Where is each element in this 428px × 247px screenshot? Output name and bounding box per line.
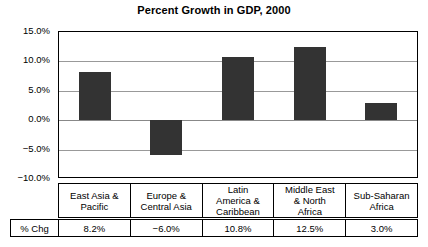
category-line: America & bbox=[216, 195, 260, 206]
value-cell-middle-east-north-africa: 12.5% bbox=[274, 220, 346, 236]
bar-europe-central-asia[interactable] bbox=[150, 120, 182, 155]
category-label-latin-america-caribbean: Latin America & Caribbean bbox=[216, 184, 260, 217]
chart-title: Percent Growth in GDP, 2000 bbox=[0, 4, 428, 16]
row-label-pct-chg: % Chg bbox=[10, 219, 59, 237]
y-tick-label-0: 0.0% bbox=[28, 114, 50, 124]
category-line: Pacific bbox=[80, 201, 108, 212]
category-cell-sub-saharan-africa: Sub-Saharan Africa bbox=[346, 184, 417, 217]
y-tick-label-15: 15.0% bbox=[23, 26, 50, 36]
y-axis-labels: 15.0% 10.0% 5.0% 0.0% −5.0% −10.0% bbox=[0, 31, 54, 178]
bar-column-middle-east-north-africa bbox=[274, 32, 346, 177]
category-line: Caribbean bbox=[216, 206, 260, 217]
category-line: Middle East bbox=[285, 184, 335, 195]
category-line: East Asia & bbox=[70, 190, 119, 201]
category-cell-east-asia-pacific: East Asia & Pacific bbox=[59, 184, 131, 217]
category-line: Central Asia bbox=[141, 201, 192, 212]
y-tick-label-5: 5.0% bbox=[28, 85, 50, 95]
bars-layer bbox=[59, 32, 417, 177]
y-tick-label-neg5: −5.0% bbox=[23, 144, 50, 154]
category-line: Latin bbox=[228, 184, 249, 195]
plot-area bbox=[58, 31, 418, 178]
category-label-middle-east-north-africa: Middle East & North Africa bbox=[285, 184, 335, 217]
category-cell-middle-east-north-africa: Middle East & North Africa bbox=[274, 184, 346, 217]
value-cell-east-asia-pacific: 8.2% bbox=[59, 220, 131, 236]
category-line: Sub-Saharan bbox=[354, 190, 410, 201]
category-label-sub-saharan-africa: Sub-Saharan Africa bbox=[354, 190, 410, 212]
category-header-row: East Asia & Pacific Europe & Central Asi… bbox=[58, 183, 418, 218]
value-row: 8.2% −6.0% 10.8% 12.5% 3.0% bbox=[58, 219, 418, 237]
y-tick-label-10: 10.0% bbox=[23, 55, 50, 65]
category-cell-latin-america-caribbean: Latin America & Caribbean bbox=[203, 184, 275, 217]
bar-column-sub-saharan-africa bbox=[345, 32, 417, 177]
bar-middle-east-north-africa[interactable] bbox=[294, 47, 326, 121]
category-line: & North bbox=[294, 195, 326, 206]
bar-sub-saharan-africa[interactable] bbox=[365, 103, 397, 121]
bar-latin-america-caribbean[interactable] bbox=[222, 57, 254, 121]
category-label-east-asia-pacific: East Asia & Pacific bbox=[70, 190, 119, 212]
category-line: Europe & bbox=[146, 190, 186, 201]
bar-column-europe-central-asia bbox=[131, 32, 203, 177]
y-tick-label-neg10: −10.0% bbox=[18, 173, 51, 183]
category-cell-europe-central-asia: Europe & Central Asia bbox=[131, 184, 203, 217]
value-cell-sub-saharan-africa: 3.0% bbox=[346, 220, 417, 236]
category-line: Africa bbox=[298, 206, 322, 217]
category-label-europe-central-asia: Europe & Central Asia bbox=[141, 190, 192, 212]
value-cell-latin-america-caribbean: 10.8% bbox=[203, 220, 275, 236]
bar-east-asia-pacific[interactable] bbox=[79, 72, 111, 120]
category-line: Africa bbox=[369, 201, 393, 212]
value-cell-europe-central-asia: −6.0% bbox=[131, 220, 203, 236]
bar-column-east-asia-pacific bbox=[59, 32, 131, 177]
bar-column-latin-america-caribbean bbox=[202, 32, 274, 177]
